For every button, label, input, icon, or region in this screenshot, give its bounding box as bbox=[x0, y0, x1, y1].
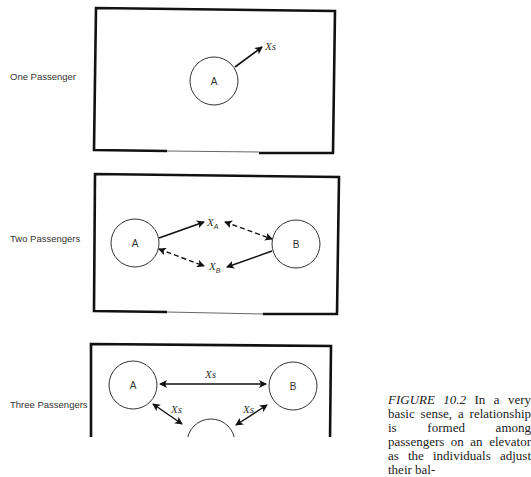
space-label-ac: Xs bbox=[170, 403, 182, 415]
passenger-a-label: A bbox=[132, 238, 139, 249]
arrow-a-xb-dashed bbox=[159, 249, 204, 266]
passenger-a-label: A bbox=[130, 380, 137, 391]
figure-caption: FIGURE 10.2 In a very basic sense, a rel… bbox=[388, 393, 531, 477]
passenger-b-label: B bbox=[290, 381, 297, 392]
space-label-bc: Xs bbox=[242, 403, 254, 415]
panel-label-three: Three Passengers bbox=[10, 399, 88, 410]
panel-label-one: One Passenger bbox=[10, 71, 76, 82]
personal-space-label: Xs bbox=[264, 40, 276, 52]
passenger-a-label: A bbox=[211, 76, 218, 87]
arrow-a-to-xa bbox=[159, 222, 204, 238]
arrow-b-to-xb bbox=[227, 251, 272, 267]
elevator-door bbox=[167, 151, 259, 152]
passenger-b-label: B bbox=[293, 239, 300, 250]
panel-label-two: Two Passengers bbox=[10, 233, 80, 244]
arrow-xa-b-dashed bbox=[225, 222, 272, 239]
panel-two-passengers: A B XA XB bbox=[94, 174, 339, 314]
personal-space-arrow bbox=[235, 47, 262, 67]
space-label-xb: XB bbox=[208, 260, 221, 274]
panel-three-passengers: A B Xs Xs Xs bbox=[91, 344, 331, 437]
panel-one-passenger: A Xs bbox=[94, 8, 335, 153]
space-label-ab: Xs bbox=[204, 368, 216, 380]
elevator-door bbox=[167, 312, 263, 314]
figure-number: FIGURE 10.2 bbox=[388, 392, 466, 407]
space-label-xa: XA bbox=[206, 216, 219, 230]
passenger-c bbox=[187, 419, 235, 437]
